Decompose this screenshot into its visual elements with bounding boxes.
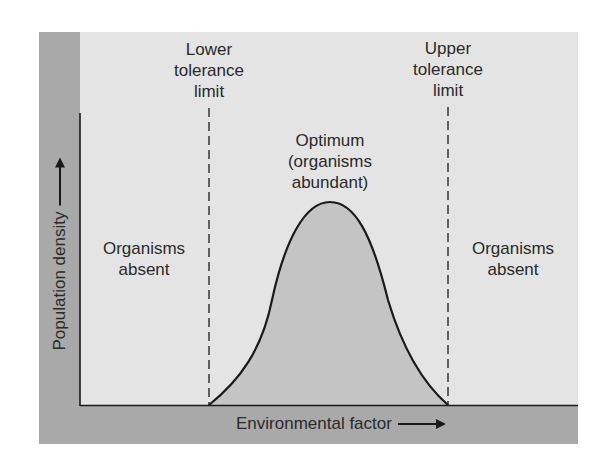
label-line: Optimum bbox=[270, 130, 390, 151]
lower-tolerance-label: Lower tolerance limit bbox=[159, 39, 259, 102]
arrow-right-icon bbox=[398, 423, 444, 425]
y-axis-label-text: Population density bbox=[50, 212, 70, 351]
label-line: limit bbox=[159, 81, 259, 102]
label-line: Upper bbox=[398, 38, 498, 59]
label-line: Organisms bbox=[89, 238, 199, 259]
tolerance-curve-area bbox=[209, 202, 448, 405]
arrow-up-icon bbox=[59, 160, 61, 206]
y-axis-label: Population density bbox=[50, 160, 70, 351]
x-axis-label: Environmental factor bbox=[236, 414, 444, 434]
upper-tolerance-label: Upper tolerance limit bbox=[398, 38, 498, 101]
label-line: Lower bbox=[159, 39, 259, 60]
label-line: tolerance bbox=[398, 59, 498, 80]
tolerance-curve-figure bbox=[0, 0, 608, 472]
label-line: Organisms bbox=[458, 238, 568, 259]
organisms-absent-right-label: Organisms absent bbox=[458, 238, 568, 280]
optimum-label: Optimum (organisms abundant) bbox=[270, 130, 390, 193]
label-line: absent bbox=[458, 259, 568, 280]
label-line: abundant) bbox=[270, 172, 390, 193]
label-line: tolerance bbox=[159, 60, 259, 81]
label-line: absent bbox=[89, 259, 199, 280]
x-axis-label-text: Environmental factor bbox=[236, 414, 392, 434]
organisms-absent-left-label: Organisms absent bbox=[89, 238, 199, 280]
label-line: (organisms bbox=[270, 151, 390, 172]
label-line: limit bbox=[398, 80, 498, 101]
